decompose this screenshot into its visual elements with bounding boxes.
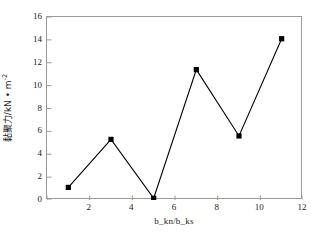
x-axis-tick-label: 6 <box>162 203 186 212</box>
data-point-marker <box>194 67 199 72</box>
y-axis-tick-label: 10 <box>16 80 42 89</box>
data-point-markers <box>66 36 285 200</box>
data-line-series <box>68 39 281 199</box>
x-axis-title: b_kn/b_ks <box>46 216 302 226</box>
chart-canvas <box>47 17 303 200</box>
y-axis-ticks <box>47 17 52 200</box>
x-axis-tick-label: 8 <box>205 203 229 212</box>
y-axis-title-cjk: 黏聚力 <box>3 115 13 142</box>
data-point-marker <box>66 185 71 190</box>
data-point-marker <box>279 36 284 41</box>
y-axis-tick-label: 16 <box>16 12 42 21</box>
x-axis-tick-label: 10 <box>247 203 271 212</box>
y-axis-tick-label: 14 <box>16 34 42 43</box>
plot-area <box>46 16 302 199</box>
x-axis-tick-labels: 24681012 <box>46 203 302 215</box>
data-point-marker <box>108 137 113 142</box>
x-axis-tick-label: 4 <box>119 203 143 212</box>
y-axis-tick-label: 0 <box>16 195 42 204</box>
y-axis-tick-label: 12 <box>16 57 42 66</box>
y-axis-title-exponent: -2 <box>1 73 9 79</box>
y-axis-tick-labels: 0246810121416 <box>12 16 42 199</box>
y-axis-tick-label: 8 <box>16 103 42 112</box>
data-point-marker <box>151 196 156 200</box>
y-axis-tick-label: 4 <box>16 149 42 158</box>
x-axis-ticks <box>47 196 303 201</box>
y-axis-title-unit: /kN • m <box>3 80 13 115</box>
chart-figure: 黏聚力/kN • m-2 0246810121416 24681012 b_kn… <box>0 0 321 241</box>
x-axis-tick-label: 12 <box>290 203 314 212</box>
y-axis-tick-label: 2 <box>16 172 42 181</box>
data-point-marker <box>236 133 241 138</box>
y-axis-tick-label: 6 <box>16 126 42 135</box>
x-axis-tick-label: 2 <box>77 203 101 212</box>
